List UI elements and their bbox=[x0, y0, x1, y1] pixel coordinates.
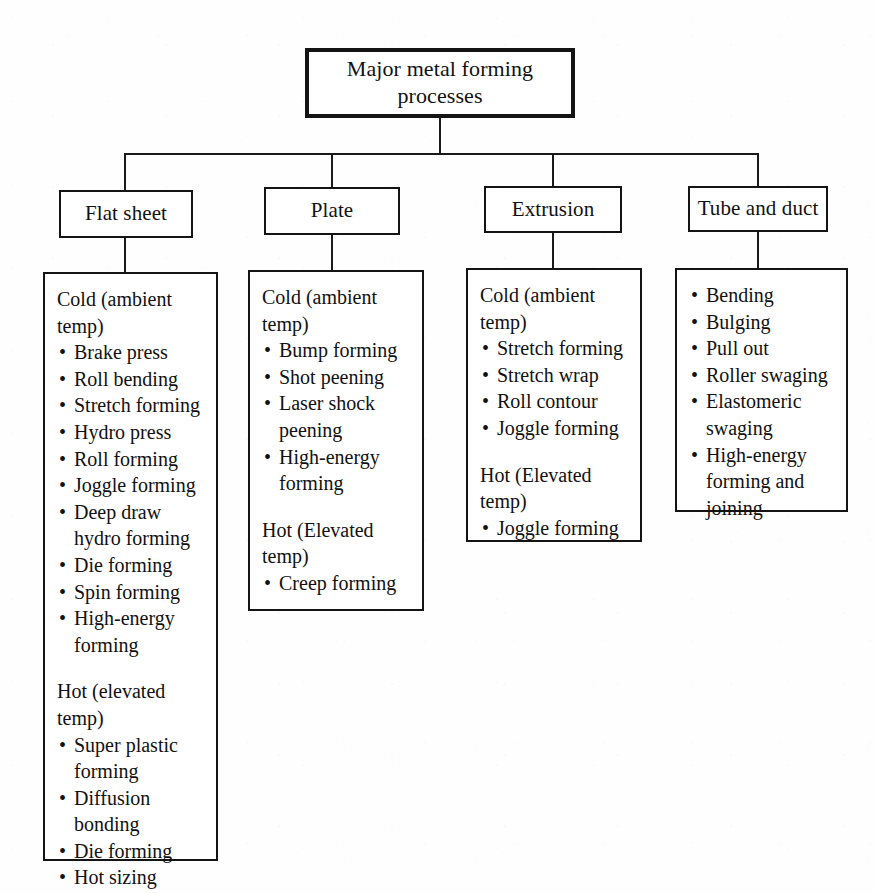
detail-bullet-label: Hot sizing bbox=[74, 866, 157, 888]
connector-flat-sheet-to-detail bbox=[124, 238, 126, 274]
detail-heading: Cold (ambient temp) bbox=[262, 284, 413, 337]
bullet-icon: • bbox=[264, 444, 271, 471]
category-label-extrusion: Extrusion bbox=[512, 197, 595, 222]
detail-bullet-item: •Joggle forming bbox=[480, 515, 631, 542]
detail-bullet-item: •Roll forming bbox=[57, 446, 207, 473]
detail-bullet-item: •Brake press bbox=[57, 339, 207, 366]
detail-bullet-item: •Stretch wrap bbox=[480, 362, 631, 389]
detail-bullet-label: Bulging bbox=[706, 311, 770, 333]
detail-bullet-label: Bump forming bbox=[279, 339, 397, 361]
detail-bullet-item: •Roll contour bbox=[480, 388, 631, 415]
connector-drop-plate bbox=[331, 153, 333, 188]
bullet-icon: • bbox=[59, 419, 66, 446]
bullet-icon: • bbox=[59, 499, 66, 526]
detail-box-flat-sheet[interactable]: Cold (ambient temp)•Brake press•Roll ben… bbox=[43, 272, 218, 861]
category-node-tube-and-duct[interactable]: Tube and duct bbox=[688, 186, 828, 232]
category-node-extrusion[interactable]: Extrusion bbox=[484, 186, 622, 233]
bullet-icon: • bbox=[59, 446, 66, 473]
bullet-icon: • bbox=[59, 605, 66, 632]
connector-plate-to-detail bbox=[331, 235, 333, 272]
detail-bullet-item: •Creep forming bbox=[262, 570, 413, 597]
detail-spacer bbox=[57, 658, 207, 678]
bullet-icon: • bbox=[59, 838, 66, 865]
bullet-icon: • bbox=[691, 335, 698, 362]
detail-bullet-item: •Die forming bbox=[57, 838, 207, 865]
detail-bullet-label: Stretch forming bbox=[74, 394, 200, 416]
root-node-label: Major metal forming processes bbox=[309, 56, 571, 110]
detail-box-tube-and-duct[interactable]: •Bending•Bulging•Pull out•Roller swaging… bbox=[675, 268, 848, 512]
detail-bullet-item: •Bending bbox=[689, 282, 837, 309]
detail-heading: Hot (elevated temp) bbox=[57, 678, 207, 731]
bullet-icon: • bbox=[59, 864, 66, 891]
detail-list-flat-sheet: Cold (ambient temp)•Brake press•Roll ben… bbox=[57, 286, 207, 891]
detail-bullet-item: •Super plastic forming bbox=[57, 732, 207, 785]
bullet-icon: • bbox=[264, 570, 271, 597]
bullet-icon: • bbox=[59, 366, 66, 393]
bullet-icon: • bbox=[482, 362, 489, 389]
detail-bullet-label: Joggle forming bbox=[497, 517, 619, 539]
detail-bullet-label: Deep draw hydro forming bbox=[74, 501, 190, 550]
detail-bullet-item: •Die forming bbox=[57, 552, 207, 579]
connector-drop-flat-sheet bbox=[124, 153, 126, 190]
detail-list-extrusion: Cold (ambient temp)•Stretch forming•Stre… bbox=[480, 282, 631, 541]
detail-bullet-label: Roll forming bbox=[74, 448, 178, 470]
detail-bullet-label: Bending bbox=[706, 284, 774, 306]
detail-bullet-item: •Shot peening bbox=[262, 364, 413, 391]
detail-bullet-item: •Joggle forming bbox=[57, 472, 207, 499]
detail-bullet-label: Roll bending bbox=[74, 368, 178, 390]
bullet-icon: • bbox=[59, 339, 66, 366]
detail-bullet-label: Shot peening bbox=[279, 366, 384, 388]
bullet-icon: • bbox=[691, 282, 698, 309]
detail-bullet-label: Pull out bbox=[706, 337, 769, 359]
detail-bullet-item: •Deep draw hydro forming bbox=[57, 499, 207, 552]
connector-drop-tube-and-duct bbox=[757, 153, 759, 187]
detail-bullet-item: •Laser shock peening bbox=[262, 390, 413, 443]
detail-bullet-item: •Elastomeric swaging bbox=[689, 388, 837, 441]
detail-bullet-label: Stretch forming bbox=[497, 337, 623, 359]
root-node-major-metal-forming-processes[interactable]: Major metal forming processes bbox=[305, 48, 575, 118]
bullet-icon: • bbox=[59, 472, 66, 499]
bullet-icon: • bbox=[482, 415, 489, 442]
detail-bullet-item: •High-energy forming and joining bbox=[689, 442, 837, 522]
detail-bullet-label: Die forming bbox=[74, 840, 172, 862]
detail-bullet-item: •Hydro press bbox=[57, 419, 207, 446]
detail-bullet-label: Elastomeric swaging bbox=[706, 390, 802, 439]
connector-extrusion-to-detail bbox=[552, 233, 554, 270]
category-node-plate[interactable]: Plate bbox=[264, 187, 400, 235]
category-label-tube-and-duct: Tube and duct bbox=[698, 196, 819, 221]
detail-heading: Cold (ambient temp) bbox=[57, 286, 207, 339]
detail-bullet-item: •Diffusion bonding bbox=[57, 785, 207, 838]
detail-bullet-item: •Stretch forming bbox=[57, 392, 207, 419]
detail-bullet-item: •Pull out bbox=[689, 335, 837, 362]
bullet-icon: • bbox=[59, 552, 66, 579]
detail-bullet-label: Laser shock peening bbox=[279, 392, 375, 441]
bullet-icon: • bbox=[482, 388, 489, 415]
detail-bullet-item: •Stretch forming bbox=[480, 335, 631, 362]
detail-bullet-item: •Bump forming bbox=[262, 337, 413, 364]
bullet-icon: • bbox=[264, 337, 271, 364]
detail-bullet-label: Diffusion bonding bbox=[74, 787, 150, 836]
detail-heading: Hot (Elevated temp) bbox=[480, 462, 631, 515]
detail-bullet-label: Roll contour bbox=[497, 390, 598, 412]
bullet-icon: • bbox=[691, 362, 698, 389]
detail-bullet-label: High-energy forming and joining bbox=[706, 444, 807, 519]
figure-canvas: Major metal forming processes Flat sheet… bbox=[0, 0, 875, 893]
detail-bullet-label: Joggle forming bbox=[497, 417, 619, 439]
connector-tube-and-duct-to-detail bbox=[757, 232, 759, 270]
detail-bullet-label: Spin forming bbox=[74, 581, 180, 603]
category-label-flat-sheet: Flat sheet bbox=[85, 201, 167, 226]
detail-box-plate[interactable]: Cold (ambient temp)•Bump forming•Shot pe… bbox=[248, 270, 424, 611]
detail-bullet-label: High-energy forming bbox=[74, 607, 175, 656]
detail-bullet-item: •High-energy forming bbox=[262, 444, 413, 497]
detail-bullet-item: •High-energy forming bbox=[57, 605, 207, 658]
detail-bullet-label: Brake press bbox=[74, 341, 168, 363]
bullet-icon: • bbox=[59, 732, 66, 759]
detail-bullet-item: •Bulging bbox=[689, 309, 837, 336]
connector-drop-extrusion bbox=[552, 153, 554, 187]
detail-bullet-label: Die forming bbox=[74, 554, 172, 576]
detail-box-extrusion[interactable]: Cold (ambient temp)•Stretch forming•Stre… bbox=[466, 268, 642, 542]
bullet-icon: • bbox=[482, 515, 489, 542]
bullet-icon: • bbox=[59, 392, 66, 419]
category-node-flat-sheet[interactable]: Flat sheet bbox=[59, 190, 193, 238]
detail-bullet-label: Stretch wrap bbox=[497, 364, 599, 386]
